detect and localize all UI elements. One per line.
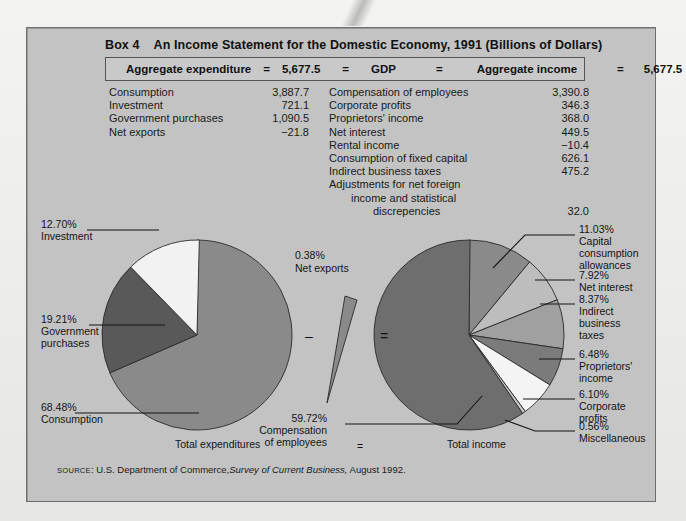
- source-tail: August 1992.: [348, 464, 406, 475]
- label-investment-pct: 12.70%: [41, 218, 77, 230]
- source-italic: Survey of Current Business,: [229, 464, 347, 475]
- label-net-exports-pct: 0.38%: [295, 249, 325, 261]
- label-indirect-l3: taxes: [579, 329, 604, 341]
- label-indirect-l1: Indirect: [579, 305, 614, 317]
- label-net-interest-pct: 7.92%: [579, 269, 609, 281]
- label-proprietors-l1: Proprietors': [579, 360, 632, 372]
- label-compensation-l2: of employees: [265, 436, 327, 448]
- label-consumption-pct: 68.48%: [41, 401, 77, 413]
- label-net-interest-l1: Net interest: [579, 281, 633, 293]
- slice-net-exports: [327, 296, 357, 403]
- source-prefix: SOURCE: [57, 466, 91, 475]
- label-capital-pct: 11.03%: [579, 223, 614, 235]
- box-panel: Box 4An Income Statement for the Domesti…: [26, 27, 656, 502]
- leader-miscellaneous: [505, 420, 575, 431]
- label-misc-pct: 0.56%: [579, 420, 609, 432]
- source-text: : U.S. Department of Commerce,: [91, 464, 229, 475]
- source-note: SOURCE: U.S. Department of Commerce,Surv…: [57, 464, 406, 475]
- label-proprietors-pct: 6.48%: [579, 348, 609, 360]
- caption-total-income: Total income: [447, 438, 506, 450]
- pie-chart-group: 12.70%Investment19.21%Governmentpurchase…: [27, 28, 655, 501]
- operator-equals: =: [380, 328, 388, 344]
- operator-minus: –: [305, 328, 313, 344]
- caption-total-expenditures: Total expenditures: [175, 438, 260, 450]
- label-proprietors-l2: income: [579, 372, 613, 384]
- label-government-pct: 19.21%: [41, 313, 77, 325]
- label-net-exports-name: Net exports: [295, 262, 349, 274]
- label-consumption-name: Consumption: [41, 413, 103, 425]
- label-indirect-l2: business: [579, 317, 620, 329]
- label-capital-l2: consumption: [579, 247, 639, 259]
- label-government-name-1: Government: [41, 325, 99, 337]
- label-indirect-pct: 8.37%: [579, 293, 609, 305]
- label-government-name-2: purchases: [41, 337, 89, 349]
- label-corporate-pct: 6.10%: [579, 388, 609, 400]
- label-misc-l1: Miscellaneous: [579, 432, 646, 444]
- label-investment-name: Investment: [41, 230, 92, 242]
- label-compensation-pct: 59.72%: [291, 412, 327, 424]
- label-capital-l1: Capital: [579, 235, 612, 247]
- label-corporate-l1: Corporate: [579, 400, 626, 412]
- caption-equals: =: [357, 440, 363, 452]
- label-compensation-l1: Compensation: [259, 424, 327, 436]
